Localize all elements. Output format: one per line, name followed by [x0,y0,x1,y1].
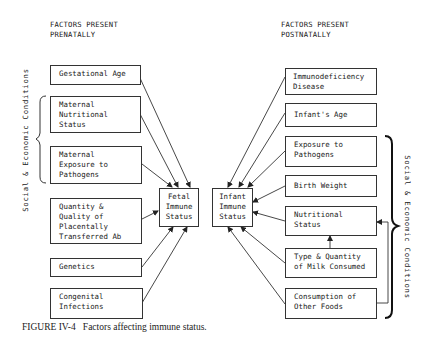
genetics-box: Genetics [50,258,142,277]
exposure-pathogens-box: Exposure to Pathogens [285,136,377,167]
immunodeficiency-box: Immunodeficiency Disease [285,68,377,95]
maternal-nutritional-status-box: Maternal Nutritional Status [50,96,141,133]
prenatal-header: FACTORS PRESENT PRENATALLY [50,20,118,40]
infants-age-box: Infant's Age [285,103,377,127]
maternal-exposure-box: Maternal Exposure to Pathogens [50,146,142,184]
postnatal-header: FACTORS PRESENT POSTNATALLY [281,20,349,40]
infant-immune-status-box: Infant Immune Status [212,188,253,227]
figure-caption: FIGURE IV-4 Factors affecting immune sta… [22,322,207,332]
milk-consumed-box: Type & Quantity of Milk Consumed [285,248,377,278]
gestational-age-box: Gestational Age [50,65,141,85]
right-brace-label: Social & Economic Conditions [403,155,412,299]
placental-antibody-box: Quantity & Quality of Placentally Transf… [50,198,142,244]
congenital-infections-box: Congenital Infections [50,288,143,319]
other-foods-box: Consumption of Other Foods [285,288,377,319]
birth-weight-box: Birth Weight [285,175,377,197]
left-brace [36,96,46,183]
nutritional-status-box: Nutritional Status [285,206,377,236]
left-brace-label: Social & Economic Conditions [21,68,30,212]
right-brace [385,136,398,318]
fetal-immune-status-box: Fetal Immune Status [159,188,199,227]
